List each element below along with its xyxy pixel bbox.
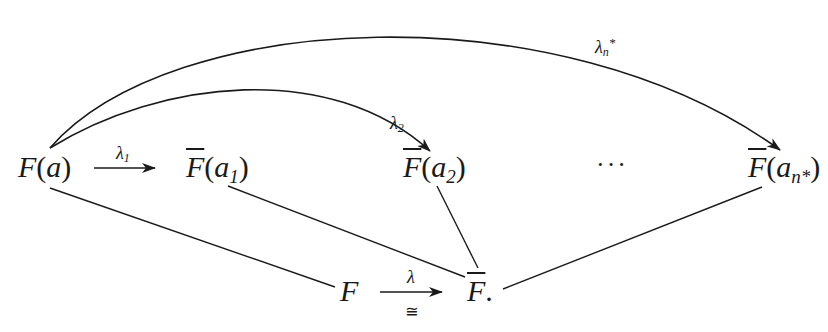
label-lambda: λ xyxy=(407,268,415,286)
subscript: 2 xyxy=(446,166,456,187)
paren: ) xyxy=(239,150,249,183)
node-Fbar-of-a1: F(a1) xyxy=(186,152,249,186)
arrow-lambda-nstar xyxy=(50,37,780,150)
subscript: 1 xyxy=(124,151,130,165)
paren: ( xyxy=(36,150,46,183)
symbol-a: a xyxy=(214,150,229,183)
symbol-Fbar: F xyxy=(403,150,421,183)
paren: ( xyxy=(766,150,776,183)
node-Fbar: F. xyxy=(467,276,493,306)
symbol-Fbar: F xyxy=(467,274,485,307)
node-Fbar-of-a2: F(a2) xyxy=(403,152,466,186)
line-Fa-to-F xyxy=(50,188,335,287)
label-lambda1: λ1 xyxy=(116,144,130,164)
paren: ( xyxy=(421,150,431,183)
subscript: 1 xyxy=(229,166,239,187)
node-F-of-a: F(a) xyxy=(18,152,71,182)
paren: ( xyxy=(204,150,214,183)
symbol-a: a xyxy=(431,150,446,183)
isomorphism-symbol: ≅ xyxy=(405,302,418,321)
node-F: F xyxy=(340,276,358,306)
superscript: * xyxy=(609,35,616,50)
symbol-Fbar: F xyxy=(748,150,766,183)
line-Fa2-to-Fbar xyxy=(437,186,478,268)
period: . xyxy=(485,274,493,307)
subscript: n* xyxy=(791,166,810,187)
symbol-a: a xyxy=(776,150,791,183)
paren: ) xyxy=(456,150,466,183)
symbol-a: a xyxy=(46,150,61,183)
paren: ) xyxy=(810,150,820,183)
lambda-symbol: λ xyxy=(390,113,398,133)
label-lambda2: λ2 xyxy=(390,114,404,134)
line-Fan-to-Fbar xyxy=(503,187,762,289)
line-Fa1-to-Fbar xyxy=(228,186,465,277)
node-Fbar-of-a-nstar: F(an*) xyxy=(748,152,820,186)
lambda-symbol: λ xyxy=(595,37,603,57)
label-lambda-nstar: λn* xyxy=(595,36,615,58)
symbol-Fbar: F xyxy=(186,150,204,183)
subscript: 2 xyxy=(398,121,404,135)
paren: ) xyxy=(61,150,71,183)
commutative-diagram: F(a) F(a1) F(a2) ··· F(an*) F F. λ1 λ2 λ… xyxy=(0,0,828,332)
ellipsis: ··· xyxy=(596,150,628,180)
lambda-symbol: λ xyxy=(407,267,415,287)
arrow-lambda2 xyxy=(50,90,430,151)
symbol-F: F xyxy=(340,274,358,307)
lambda-symbol: λ xyxy=(116,143,124,163)
symbol-F: F xyxy=(18,150,36,183)
